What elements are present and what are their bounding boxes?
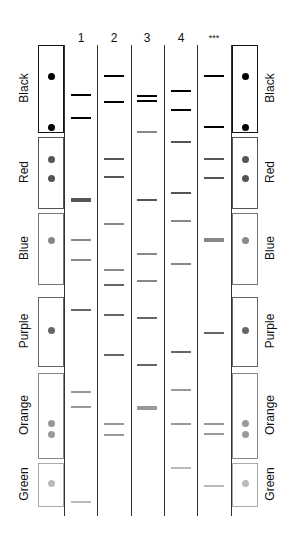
band (137, 280, 157, 282)
key-dot-icon (242, 480, 249, 487)
left-key-label: Blue (17, 218, 31, 278)
band (104, 223, 124, 225)
band (204, 177, 224, 179)
band (104, 434, 124, 436)
band (204, 126, 224, 128)
band (71, 117, 91, 119)
band (171, 263, 191, 265)
band (104, 75, 124, 77)
band (171, 423, 191, 425)
key-dot-icon (48, 420, 55, 427)
band (137, 131, 157, 133)
band (137, 406, 157, 410)
right-key-label: Red (263, 142, 277, 202)
lane-label: *** (204, 33, 224, 43)
band (204, 433, 224, 435)
band (71, 406, 91, 408)
band (171, 467, 191, 469)
key-dot-icon (242, 237, 249, 244)
lane-separator (64, 45, 65, 516)
key-dot-icon (48, 124, 55, 131)
right-key-box-orange (232, 373, 258, 459)
right-key-label: Green (263, 454, 277, 514)
band (204, 75, 224, 77)
lane-separator (197, 45, 198, 516)
band (137, 364, 157, 366)
band (204, 485, 224, 487)
left-key-box-blue (38, 213, 64, 285)
band (104, 101, 124, 103)
lane-label: 3 (137, 31, 157, 45)
band (71, 391, 91, 393)
left-key-label: Black (17, 58, 31, 118)
right-key-label: Orange (263, 385, 277, 445)
right-key-box-blue (232, 213, 258, 285)
band (104, 176, 124, 178)
right-key-box-black (232, 45, 258, 133)
band (137, 317, 157, 319)
key-dot-icon (242, 420, 249, 427)
key-dot-icon (48, 480, 55, 487)
key-dot-icon (48, 175, 55, 182)
band (204, 238, 224, 242)
band (71, 259, 91, 261)
left-key-label: Orange (17, 385, 31, 445)
band (171, 90, 191, 92)
key-dot-icon (48, 237, 55, 244)
lane-label: 1 (71, 31, 91, 45)
band (137, 199, 157, 201)
right-key-label: Purple (263, 301, 277, 361)
band (204, 158, 224, 160)
key-dot-icon (242, 327, 249, 334)
band (204, 423, 224, 425)
band (104, 423, 124, 425)
key-dot-icon (242, 73, 249, 80)
band (137, 253, 157, 255)
lane-separator (97, 45, 98, 516)
lane-separator (131, 45, 132, 516)
band (104, 284, 124, 286)
lane-label: 2 (104, 31, 124, 45)
band (171, 351, 191, 353)
left-key-box-red (38, 137, 64, 209)
key-dot-icon (242, 124, 249, 131)
band (137, 95, 157, 97)
band (71, 501, 91, 503)
key-dot-icon (242, 156, 249, 163)
left-key-label: Purple (17, 301, 31, 361)
band (171, 389, 191, 391)
band (104, 314, 124, 316)
band (171, 141, 191, 143)
right-key-label: Blue (263, 218, 277, 278)
left-key-box-orange (38, 373, 64, 459)
lane-label: 4 (171, 31, 191, 45)
band (171, 109, 191, 111)
band (171, 220, 191, 222)
band (71, 94, 91, 96)
left-key-label: Green (17, 454, 31, 514)
band (204, 332, 224, 334)
lane-separator (164, 45, 165, 516)
band (137, 100, 157, 102)
left-key-label: Red (17, 142, 31, 202)
key-dot-icon (48, 156, 55, 163)
key-dot-icon (48, 73, 55, 80)
key-dot-icon (48, 327, 55, 334)
band (104, 269, 124, 271)
right-key-label: Black (263, 58, 277, 118)
band (171, 192, 191, 194)
band (71, 239, 91, 241)
band (71, 198, 91, 202)
left-key-box-black (38, 45, 64, 133)
key-dot-icon (242, 175, 249, 182)
right-key-box-red (232, 137, 258, 209)
band (104, 158, 124, 160)
band (104, 354, 124, 356)
key-dot-icon (48, 431, 55, 438)
key-dot-icon (242, 431, 249, 438)
band (71, 309, 91, 311)
